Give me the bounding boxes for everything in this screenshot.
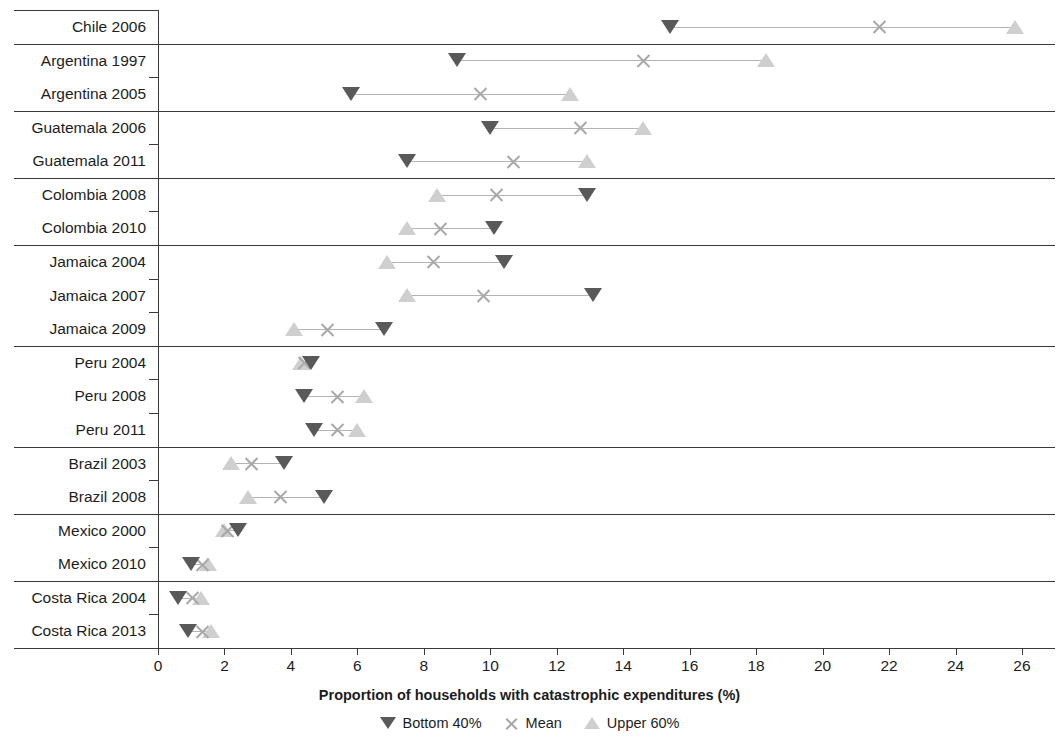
legend-label-bottom-40: Bottom 40% [403,715,482,731]
row-track [158,514,1055,548]
upper-60-marker [355,389,373,403]
catastrophic-expenditures-chart: Chile 2006Argentina 1997Argentina 2005Gu… [0,0,1059,739]
chart-legend: Bottom 40% Mean Upper 60% [0,715,1059,731]
upper-60-marker [1006,20,1024,34]
x-axis-title: Proportion of households with catastroph… [0,687,1059,703]
upper-60-marker [578,154,596,168]
row-track [158,245,1055,279]
bottom-40-marker [398,154,416,168]
bottom-40-marker [182,557,200,571]
row-label-argentina-1997: Argentina 1997 [0,44,146,78]
row-track [158,111,1055,145]
table-row: Jamaica 2009 [0,312,1055,346]
upper-60-marker [428,188,446,202]
bottom-40-marker [375,322,393,336]
row-track [158,413,1055,447]
mean-marker [184,589,201,606]
axis-tick [1022,648,1023,655]
legend-label-upper-60: Upper 60% [607,715,680,731]
row-label-brazil-2003: Brazil 2003 [0,447,146,481]
row-track [158,447,1055,481]
bottom-40-marker [229,523,247,537]
table-row: Costa Rica 2004 [0,581,1055,615]
table-row: Colombia 2008 [0,178,1055,212]
bottom-40-marker [485,221,503,235]
axis-tick-label: 12 [537,657,577,675]
range-connector-line [407,161,586,162]
row-label-chile-2006: Chile 2006 [0,10,146,44]
row-track [158,144,1055,178]
down-triangle-icon [380,717,396,729]
table-row: Argentina 1997 [0,44,1055,78]
row-label-peru-2008: Peru 2008 [0,379,146,413]
axis-tick [224,648,225,655]
row-label-jamaica-2009: Jamaica 2009 [0,312,146,346]
table-row: Argentina 2005 [0,77,1055,111]
bottom-40-marker [661,20,679,34]
row-label-colombia-2008: Colombia 2008 [0,178,146,212]
axis-tick [490,648,491,655]
range-connector-line [670,27,1016,28]
row-label-costa-rica-2013: Costa Rica 2013 [0,614,146,648]
upper-60-marker [561,87,579,101]
mean-marker [475,287,492,304]
table-row: Mexico 2000 [0,514,1055,548]
table-row: Mexico 2010 [0,547,1055,581]
axis-tick [756,648,757,655]
range-connector-line [351,94,570,95]
bottom-40-marker [481,121,499,135]
table-row: Peru 2004 [0,346,1055,380]
value-axis: 02468101214161820222426 [0,648,1059,688]
row-track [158,44,1055,78]
plot-area: Chile 2006Argentina 1997Argentina 2005Gu… [0,10,1055,648]
axis-tick-label: 16 [670,657,710,675]
row-label-jamaica-2007: Jamaica 2007 [0,279,146,313]
bottom-40-marker [495,255,513,269]
axis-tick-label: 8 [404,657,444,675]
mean-marker [432,220,449,237]
row-track [158,211,1055,245]
bottom-40-marker [448,53,466,67]
row-track [158,279,1055,313]
axis-tick-label: 4 [271,657,311,675]
range-connector-line [407,295,593,296]
bottom-40-marker [275,456,293,470]
row-label-mexico-2010: Mexico 2010 [0,547,146,581]
range-connector-line [457,60,766,61]
table-row: Colombia 2010 [0,211,1055,245]
axis-tick-label: 24 [936,657,976,675]
bottom-40-marker [302,356,320,370]
axis-tick-label: 6 [337,657,377,675]
axis-tick-label: 10 [470,657,510,675]
axis-tick-label: 14 [603,657,643,675]
row-label-mexico-2000: Mexico 2000 [0,514,146,548]
table-row: Guatemala 2006 [0,111,1055,145]
upper-60-marker [398,288,416,302]
axis-tick-label: 20 [803,657,843,675]
mean-marker [488,186,505,203]
axis-tick [291,648,292,655]
range-connector-line [490,128,643,129]
row-track [158,77,1055,111]
row-track [158,581,1055,615]
row-track [158,614,1055,648]
row-track [158,10,1055,44]
upper-60-marker [285,322,303,336]
table-row: Costa Rica 2013 [0,614,1055,648]
row-label-costa-rica-2004: Costa Rica 2004 [0,581,146,615]
row-track [158,178,1055,212]
mean-marker [505,153,522,170]
axis-tick [557,648,558,655]
legend-label-mean: Mean [526,715,562,731]
axis-tick-label: 2 [204,657,244,675]
bottom-40-marker [584,288,602,302]
mean-marker [572,119,589,136]
mean-marker [635,52,652,69]
axis-tick [956,648,957,655]
row-track [158,312,1055,346]
row-label-guatemala-2006: Guatemala 2006 [0,111,146,145]
table-row: Peru 2008 [0,379,1055,413]
bottom-40-marker [342,87,360,101]
upper-60-marker [634,121,652,135]
axis-tick [424,648,425,655]
